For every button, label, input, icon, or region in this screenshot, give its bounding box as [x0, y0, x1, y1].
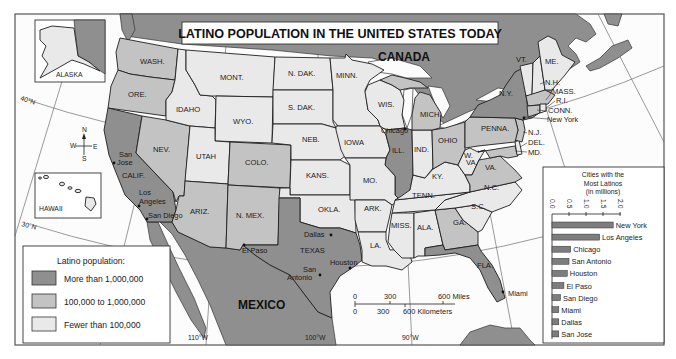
city-label-houston: Houston — [330, 258, 358, 267]
label-me: ME. — [545, 57, 559, 66]
city-label-miami: Miami — [508, 289, 528, 298]
chart-title-2: Most Latinos — [584, 180, 623, 187]
chart-bar-label: San Antonio — [572, 257, 612, 266]
label-ind: IND. — [414, 145, 429, 154]
map-title: LATINO POPULATION IN THE UNITED STATES T… — [178, 22, 502, 44]
label-vt: VT. — [516, 55, 527, 64]
label-utah: UTAH — [196, 152, 216, 161]
label-kans: KANS. — [306, 171, 329, 180]
inset-label-alaska: ALASKA — [56, 71, 83, 78]
chart-bar — [552, 307, 559, 313]
inset-label-hawaii: HAWAII — [39, 205, 63, 212]
chart-bar-label: Dallas — [561, 318, 582, 327]
chart-bar-label: Chicago — [573, 245, 600, 254]
label-nh: N.H. — [545, 78, 560, 87]
city-dot-san-jose — [113, 162, 116, 165]
label-ohio: OHIO — [438, 136, 458, 145]
label-nc: N.C. — [484, 183, 499, 192]
chart-bar — [552, 246, 571, 252]
chart-bar-label: New York — [616, 221, 648, 230]
label-calif: CALIF. — [122, 171, 145, 180]
label-minn: MINN. — [336, 71, 358, 80]
svg-text:S: S — [82, 155, 87, 162]
label-wva-2: VA. — [466, 158, 478, 167]
label-ariz: ARIZ. — [190, 207, 209, 216]
city-dot-new-york — [523, 117, 526, 120]
svg-text:600 Kilometers: 600 Kilometers — [403, 307, 453, 316]
label-tenn: TENN. — [412, 191, 435, 200]
city-label-dallas: Dallas — [304, 230, 325, 239]
chart-bar — [552, 295, 561, 301]
state-indiana — [412, 130, 433, 178]
label-90w: 90°W — [402, 334, 419, 341]
legend-label-medium: 100,000 to 1,000,000 — [64, 297, 145, 307]
label-fla: FLA. — [477, 261, 493, 270]
chart-title-1: Cities with the — [582, 171, 625, 178]
title-text: LATINO POPULATION IN THE UNITED STATES T… — [178, 27, 502, 41]
label-mass: MASS. — [552, 87, 576, 96]
chart-bar-label: El Paso — [566, 282, 591, 291]
city-dot-houston — [349, 267, 352, 270]
label-penna: PENNA. — [481, 124, 509, 133]
legend-label-low: Fewer than 100,000 — [64, 320, 141, 330]
hawaii-inset: HAWAII — [35, 173, 101, 218]
city-label-chicago: Chicago — [381, 126, 408, 135]
cities-bar-chart: Cities with the Most Latinos (in million… — [543, 167, 664, 343]
label-idaho: IDAHO — [176, 105, 200, 114]
legend-swatch-medium — [32, 294, 56, 308]
svg-text:1.0: 1.0 — [583, 199, 590, 209]
label-ky: KY. — [432, 172, 443, 181]
legend-swatch-low — [32, 317, 56, 331]
country-label-canada: CANADA — [378, 50, 430, 64]
legend-label-high: More than 1,000,000 — [64, 274, 144, 284]
city-label-los-angeles-1: Los — [139, 188, 151, 197]
city-dot-san-antonio — [319, 274, 322, 277]
label-ill: ILL. — [392, 146, 405, 155]
chart-title-3: (in millions) — [586, 188, 620, 196]
city-label-los-angeles-2: Angeles — [139, 197, 166, 206]
label-del: DEL. — [528, 138, 545, 147]
city-label-san-jose-2: Jose — [117, 158, 133, 167]
label-ala: ALA. — [417, 223, 433, 232]
svg-text:E: E — [93, 143, 98, 150]
label-wis: WIS. — [378, 100, 394, 109]
chart-bar-label: San Diego — [563, 294, 598, 303]
city-label-san-diego: San Diego — [148, 211, 183, 220]
label-ark: ARK. — [364, 204, 382, 213]
label-nj: N.J. — [528, 128, 542, 137]
label-wash: WASH. — [140, 57, 165, 66]
chart-bar — [552, 222, 613, 228]
label-ri: R.I. — [556, 96, 568, 105]
latino-population-map: WASH. ORE. IDAHO MONT. WYO. N. DAK. S. D… — [0, 0, 676, 359]
label-sc: S.C. — [471, 202, 486, 211]
legend-swatch-high — [32, 271, 56, 285]
label-colo: COLO. — [245, 158, 269, 167]
chart-bar — [552, 319, 559, 325]
chart-bar — [552, 258, 569, 264]
label-mo: MO. — [363, 176, 377, 185]
label-va: VA. — [485, 163, 497, 172]
label-ny: N.Y. — [499, 89, 513, 98]
chart-bar — [552, 331, 559, 337]
label-nev: NEV. — [153, 145, 170, 154]
chart-bar — [552, 270, 567, 276]
label-nmex: N. MEX. — [236, 211, 264, 220]
label-okla: OKLA. — [318, 205, 340, 214]
svg-text:W: W — [70, 142, 77, 149]
label-100w: 100°W — [305, 334, 326, 341]
chart-bar — [552, 234, 600, 240]
svg-text:0: 0 — [353, 292, 357, 301]
chart-bar-label: Los Angeles — [602, 233, 643, 242]
label-sdak: S. DAK. — [288, 103, 315, 112]
city-label-el-paso: El Paso — [242, 246, 267, 255]
alaska-inset: ALASKA — [35, 20, 105, 82]
svg-text:1.5: 1.5 — [600, 199, 607, 209]
label-ga: GA. — [453, 218, 466, 227]
svg-text:0: 0 — [353, 307, 357, 316]
state-rhode-island — [540, 104, 546, 113]
legend-title: Latino population: — [57, 256, 125, 266]
label-texas: TEXAS — [300, 246, 325, 255]
label-miss: MISS. — [391, 221, 412, 230]
svg-text:2.0: 2.0 — [617, 199, 624, 209]
svg-text:300: 300 — [377, 307, 389, 316]
